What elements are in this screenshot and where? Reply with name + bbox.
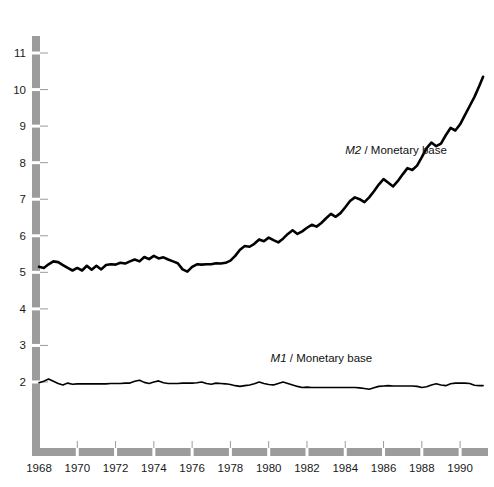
line-chart-figure: 234567891011 196819701972197419761978198… xyxy=(0,0,494,487)
y-tick-label: 5 xyxy=(20,266,26,278)
m1-label-rest: / Monetary base xyxy=(287,352,373,364)
x-tick-label: 1984 xyxy=(332,462,358,474)
x-tick-label: 1990 xyxy=(447,462,473,474)
m2-label: M2 / Monetary base xyxy=(345,144,447,156)
series-lines xyxy=(39,77,483,390)
y-tick-label: 4 xyxy=(20,303,27,315)
m1-label: M1 / Monetary base xyxy=(271,352,373,364)
y-tick-label: 10 xyxy=(13,84,26,96)
y-tick-label: 2 xyxy=(20,376,26,388)
m2-label-rest: / Monetary base xyxy=(361,144,447,156)
series-line-m1 xyxy=(39,379,483,389)
chart-container: 234567891011 196819701972197419761978198… xyxy=(0,0,494,487)
x-tick-label: 1978 xyxy=(218,462,244,474)
x-tick-label: 1988 xyxy=(409,462,435,474)
x-tick-label: 1976 xyxy=(179,462,205,474)
x-tick-label: 1970 xyxy=(64,462,90,474)
y-tick-labels: 234567891011 xyxy=(13,47,26,388)
x-tick-label: 1986 xyxy=(371,462,397,474)
m1-label-symbol: M1 xyxy=(271,352,287,364)
series-line-m2 xyxy=(39,77,483,272)
x-tick-label: 1982 xyxy=(294,462,320,474)
y-axis xyxy=(32,36,48,456)
x-tick-label: 1980 xyxy=(256,462,282,474)
x-tick-labels: 1968197019721974197619781980198219841986… xyxy=(26,462,473,474)
y-tick-label: 11 xyxy=(14,47,26,59)
x-tick-label: 1972 xyxy=(103,462,129,474)
x-tick-label: 1968 xyxy=(26,462,52,474)
y-tick-label: 8 xyxy=(20,157,26,169)
y-tick-label: 3 xyxy=(20,339,26,351)
x-tick-label: 1974 xyxy=(141,462,167,474)
m2-label-symbol: M2 xyxy=(345,144,362,156)
x-axis xyxy=(32,441,488,456)
y-tick-label: 7 xyxy=(20,193,26,205)
y-tick-label: 9 xyxy=(20,120,26,132)
y-tick-label: 6 xyxy=(20,230,26,242)
series-annotations: M2 / Monetary baseM1 / Monetary base xyxy=(271,144,447,364)
